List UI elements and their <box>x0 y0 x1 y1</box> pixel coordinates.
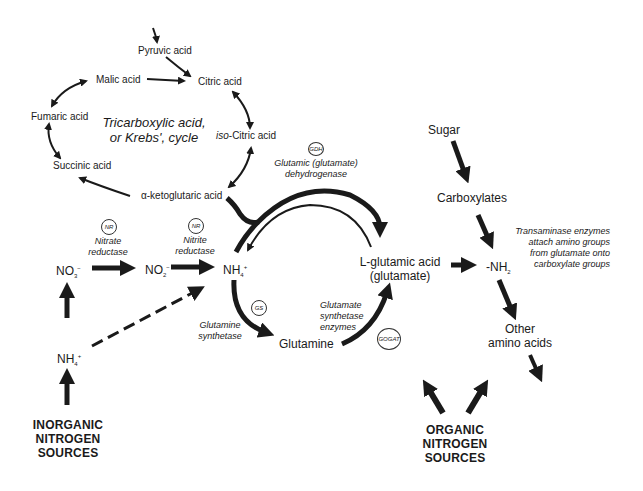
gogat-line3: enzymes <box>320 322 364 333</box>
no3-text: NO <box>56 264 74 278</box>
transaminase-line3: from glutamate onto <box>506 248 610 259</box>
nr2-line1: Nitrite <box>171 235 219 246</box>
iso-prefix: iso <box>216 130 229 141</box>
arrow-nh4-dashed <box>92 291 196 346</box>
node-nh4-source: NH4+ <box>57 349 81 371</box>
no3-sub: 3 <box>74 273 77 279</box>
arrow-pyruvic-citric <box>166 57 190 76</box>
node-no2: NO2− <box>145 260 170 282</box>
nh4-main-sup: + <box>244 264 248 270</box>
arrow-isocitric-ketoglutaric <box>229 148 251 187</box>
glutamic-line1: L-glutamic acid <box>354 255 446 269</box>
arrow-organic-up-left <box>428 388 443 413</box>
no2-sup: − <box>166 264 170 270</box>
transaminase-line2: attach amino groups <box>506 237 610 248</box>
krebs-title-line2: or Krebs', cycle <box>100 130 208 145</box>
arrow-carboxylates-nh2 <box>478 215 489 240</box>
node-sugar: Sugar <box>428 123 460 137</box>
node-glutamine: Glutamine <box>279 337 334 351</box>
nr1-line2: reductase <box>84 247 132 258</box>
organic-line1: ORGANIC <box>415 423 495 437</box>
no3-sup: − <box>77 265 81 271</box>
gs-badge: GS <box>251 300 267 316</box>
organic-line2: NITROGEN <box>415 437 495 451</box>
arrow-ketoglutaric-succinic <box>80 178 130 196</box>
arrow-sugar-carboxylates-vis <box>453 141 465 174</box>
nr-badge-nitrite: NR <box>188 218 204 234</box>
gogat-line2: synthetase <box>320 311 364 322</box>
gs-line1: Glutamine <box>193 320 247 331</box>
node-malic-acid: Malic acid <box>96 74 140 86</box>
inorganic-nitrogen-sources: INORGANIC NITROGEN SOURCES <box>28 418 108 460</box>
nh4-source-text: NH <box>57 352 74 366</box>
inorganic-line1: INORGANIC <box>28 418 108 432</box>
no2-sub: 2 <box>163 272 166 278</box>
nh2-text: -NH <box>486 260 507 274</box>
arrow-malic-citric <box>147 79 184 81</box>
arrow-other-out <box>530 355 538 373</box>
krebs-cycle-title: Tricarboxylic acid, or Krebs', cycle <box>100 115 208 145</box>
gogat-label: Glutamate synthetase enzymes <box>320 300 364 333</box>
isocitric-suffix: -Citric acid <box>229 130 276 141</box>
gogat-line1: Glutamate <box>320 300 364 311</box>
inorganic-line2: NITROGEN <box>28 432 108 446</box>
arrow-into-pyruvic <box>153 28 157 42</box>
arrow-citric-isocitric <box>233 92 250 128</box>
node-pyruvic-acid: Pyruvic acid <box>138 45 192 57</box>
glutamine-synthetase-label: Glutamine synthetase <box>193 320 247 342</box>
node-nh4-main: NH4+ <box>223 260 247 282</box>
gdh-label: Glutamic (glutamate) dehydrogenase <box>268 158 364 180</box>
nh4-main-text: NH <box>223 263 240 277</box>
node-glutamic-acid: L-glutamic acid (glutamate) <box>354 255 446 283</box>
node-other-amino-acids: Other amino acids <box>480 322 560 350</box>
nh4-source-sup: + <box>78 353 82 359</box>
nr-badge-nitrate: NR <box>101 219 117 235</box>
glutamic-line2: (glutamate) <box>354 269 446 283</box>
other-line1: Other <box>480 322 560 336</box>
gs-line2: synthetase <box>193 331 247 342</box>
node-no3: NO3− <box>56 261 81 283</box>
no2-text: NO <box>145 263 163 277</box>
node-carboxylates: Carboxylates <box>437 191 507 205</box>
arrow-fumaric-succinic <box>48 124 60 158</box>
arrow-malic-fumaric <box>52 81 86 106</box>
nitrate-reductase-label: Nitrate reductase <box>84 236 132 258</box>
organic-line3: SOURCES <box>415 451 495 465</box>
organic-nitrogen-sources: ORGANIC NITROGEN SOURCES <box>415 423 495 465</box>
nr1-line1: Nitrate <box>84 236 132 247</box>
other-line2: amino acids <box>480 336 560 350</box>
gdh-line2: dehydrogenase <box>268 169 364 180</box>
krebs-title-line1: Tricarboxylic acid, <box>100 115 208 130</box>
nh2-sub: 2 <box>507 269 510 275</box>
nh4-source-sub: 4 <box>74 361 77 367</box>
gdh-badge: GDH <box>308 142 324 156</box>
inorganic-line3: SOURCES <box>28 446 108 460</box>
gogat-badge: GOGAT <box>377 328 401 350</box>
transaminase-line4: carboxylate groups <box>506 259 610 270</box>
node-ketoglutaric-acid: α-ketoglutaric acid <box>141 190 222 202</box>
nh4-main-sub: 4 <box>240 272 243 278</box>
arrow-organic-up-right <box>468 388 483 413</box>
gdh-line1: Glutamic (glutamate) <box>268 158 364 169</box>
nitrite-reductase-label: Nitrite reductase <box>171 235 219 257</box>
nr2-line2: reductase <box>171 246 219 257</box>
node-fumaric-acid: Fumaric acid <box>31 111 88 123</box>
transaminase-label: Transaminase enzymes attach amino groups… <box>506 226 610 270</box>
arrow-nh2-other <box>499 280 512 311</box>
node-citric-acid: Citric acid <box>198 76 242 88</box>
transaminase-line1: Transaminase enzymes <box>506 226 610 237</box>
node-succinic-acid: Succinic acid <box>53 160 111 172</box>
node-isocitric-acid: iso-Citric acid <box>216 130 276 142</box>
